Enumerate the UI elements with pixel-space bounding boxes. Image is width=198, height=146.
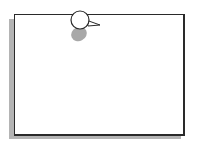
pushpin-icon bbox=[0, 0, 198, 146]
pushpin-head bbox=[71, 11, 89, 29]
